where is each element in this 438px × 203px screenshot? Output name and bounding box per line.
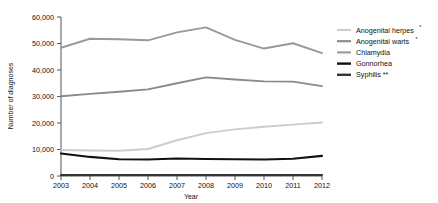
legend-label-superscript: * [419, 24, 421, 30]
y-tick-label: 40,000 [32, 66, 54, 75]
x-tick-label: 2009 [227, 181, 243, 190]
x-tick-label: 2012 [314, 181, 330, 190]
x-tick-label: 2005 [111, 181, 127, 190]
x-tick-label: 2010 [256, 181, 272, 190]
legend-label: Chlamydia [356, 48, 390, 57]
y-tick-label: 0 [50, 172, 54, 181]
line-chart: 010,00020,00030,00040,00050,00060,000 20… [0, 0, 438, 203]
x-tick-label: 2011 [285, 181, 300, 190]
legend-label: Anogenital herpes [356, 26, 414, 35]
y-tick-label: 10,000 [32, 145, 54, 154]
x-axis-title: Year [184, 193, 199, 200]
y-tick-label: 50,000 [32, 39, 54, 48]
x-tick-label: 2003 [53, 181, 69, 190]
legend-label: Anogenital warts [356, 37, 410, 46]
x-tick-label: 2006 [140, 181, 156, 190]
legend-label-superscript: * [416, 36, 418, 42]
x-tick-label: 2004 [82, 181, 98, 190]
legend-label: Syphilis ** [356, 70, 389, 79]
y-tick-label: 60,000 [32, 13, 54, 22]
y-tick-label: 20,000 [32, 119, 54, 128]
chart-canvas: 010,00020,00030,00040,00050,00060,000 20… [0, 0, 438, 203]
x-tick-label: 2008 [198, 181, 214, 190]
y-tick-label: 30,000 [32, 92, 54, 101]
y-axis-title: Number of diagnoses [7, 62, 15, 129]
legend-label: Gonnorhea [356, 59, 392, 68]
x-tick-label: 2007 [169, 181, 185, 190]
